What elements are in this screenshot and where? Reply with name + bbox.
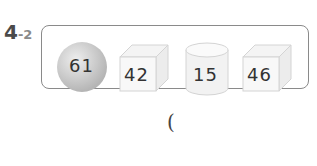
cube-value-1: 42 xyxy=(124,64,149,85)
cube-value-2: 46 xyxy=(247,64,272,85)
sphere-value: 61 xyxy=(69,55,94,76)
question-number: 4-2 xyxy=(4,20,32,44)
answer-open-paren: ( xyxy=(167,110,175,134)
cylinder-value: 15 xyxy=(193,64,218,85)
question-main-number: 4 xyxy=(4,20,18,44)
question-sub-number: -2 xyxy=(18,27,32,42)
